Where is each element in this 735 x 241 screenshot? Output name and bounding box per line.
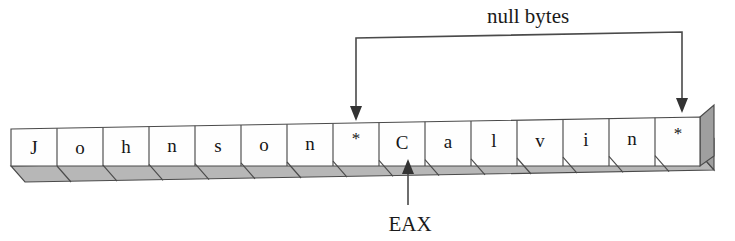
null-bytes-right-arrowhead-icon [676,98,688,113]
byte-cell-6[interactable]: n [305,133,315,154]
null-bytes-left-arrowhead-icon [350,106,362,121]
byte-cell-12[interactable]: i [583,129,588,150]
byte-cell-0[interactable]: J [30,137,37,158]
null-bytes-bracket [356,32,682,112]
eax-label: EAX [388,212,431,236]
null-bytes-callout: null bytes [350,4,688,121]
null-bytes-label: null bytes [487,4,569,28]
memory-layout-diagram: J o h n s o n * C a l v i n * null bytes [0,0,735,241]
byte-cell-11[interactable]: v [535,130,545,151]
byte-cell-8[interactable]: C [396,132,409,153]
byte-cell-3[interactable]: n [167,135,177,156]
array-right-end-face [700,105,714,166]
byte-cell-4[interactable]: s [214,135,221,156]
byte-cell-5[interactable]: o [259,134,269,155]
byte-cell-10[interactable]: l [491,130,496,151]
byte-cell-1[interactable]: o [75,137,85,158]
diagram-canvas: J o h n s o n * C a l v i n * null bytes [0,0,735,241]
byte-cell-14-null[interactable]: * [674,124,683,143]
byte-cell-13[interactable]: n [627,128,637,149]
byte-cell-2[interactable]: h [121,136,131,157]
byte-cell-7-null[interactable]: * [352,129,361,148]
byte-cell-9[interactable]: a [444,131,453,152]
